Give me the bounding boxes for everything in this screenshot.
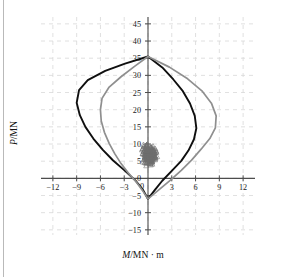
scatter-cluster-triangles [139, 141, 159, 167]
y-tick-label: −10 [128, 209, 141, 218]
x-tick-label: −9 [72, 183, 81, 192]
y-tick-label: −5 [132, 192, 141, 201]
x-tick-label: 6 [194, 183, 198, 192]
y-axis-tick-labels: 454035302520151050−5−10−15 [128, 20, 141, 235]
y-tick-label: 15 [133, 123, 141, 132]
y-axis-title: P/MN [8, 121, 19, 146]
x-axis-title: M/MN · m [121, 249, 164, 260]
x-axis-tick-labels: −12−9−6−3036912 [46, 182, 247, 192]
x-tick-label: 12 [239, 183, 247, 192]
axes [41, 17, 255, 235]
y-tick-label: 25 [133, 89, 141, 98]
y-tick-label: 30 [133, 71, 141, 80]
svg-text:M/MN · m: M/MN · m [121, 249, 164, 260]
x-tick-label: 3 [170, 183, 174, 192]
x-tick-label: −12 [46, 183, 59, 192]
x-tick-label: −6 [96, 183, 105, 192]
pm-interaction-chart: −12−9−6−3036912 454035302520151050−5−10−… [0, 0, 286, 277]
x-tick-label: −3 [120, 183, 129, 192]
y-tick-label: 40 [133, 37, 141, 46]
y-tick-label: 20 [133, 106, 141, 115]
y-tick-label: 45 [133, 20, 141, 29]
y-tick-label: 10 [133, 140, 141, 149]
y-tick-label: 5 [137, 157, 141, 166]
x-tick-label: 9 [217, 183, 221, 192]
svg-text:P/MN: P/MN [8, 121, 19, 146]
figure-container: −12−9−6−3036912 454035302520151050−5−10−… [0, 0, 286, 277]
curve-gray [100, 56, 216, 198]
y-tick-label: −15 [128, 226, 141, 235]
